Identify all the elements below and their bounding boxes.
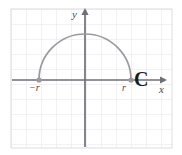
endpoint-marker-positive-r [128, 77, 133, 82]
figure-canvas [0, 0, 182, 155]
coordinate-grid [11, 9, 172, 148]
revolution-arrow-icon: C [134, 69, 147, 89]
x-axis-label: x [159, 84, 164, 95]
y-axis-label: y [72, 9, 77, 20]
tick-label-positive-r: r [122, 83, 126, 93]
tick-label-negative-r: −r [29, 83, 40, 93]
semicircle-revolution-figure: y x −r r C [0, 0, 182, 155]
